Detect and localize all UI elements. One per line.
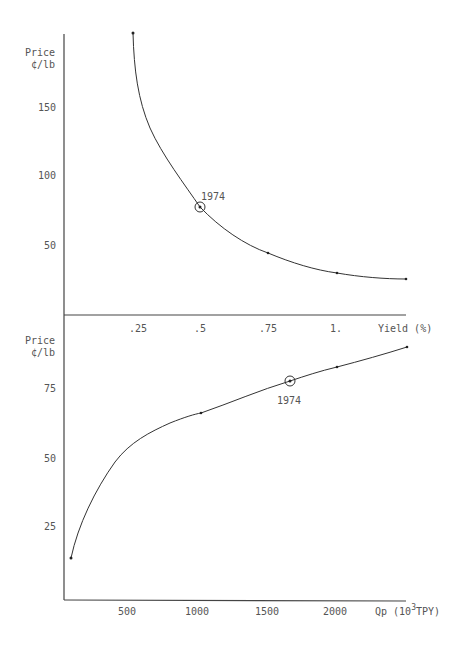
bottom-point <box>336 366 339 369</box>
bottom-x-axis <box>64 600 406 601</box>
bottom-xtick-1500: 1500 <box>255 606 279 617</box>
bottom-ylabel-line1: Price <box>25 335 55 346</box>
top-xtick-1: 1. <box>330 323 342 334</box>
bottom-curve <box>71 347 407 558</box>
bottom-point <box>200 412 203 415</box>
top-ylabel-line1: Price <box>25 47 55 58</box>
top-xtick-025: .25 <box>129 323 147 334</box>
bottom-xtick-1000: 1000 <box>185 606 209 617</box>
top-point-1974 <box>199 206 202 209</box>
top-xtick-075: .75 <box>259 323 277 334</box>
top-point <box>267 252 270 255</box>
top-curve <box>133 33 406 279</box>
bottom-xlabel: Qp (103TPY) <box>375 603 440 617</box>
top-point <box>132 32 135 35</box>
bottom-ytick-75: 75 <box>44 383 56 394</box>
top-point <box>336 272 339 275</box>
top-ytick-150: 150 <box>38 102 56 113</box>
bottom-point <box>406 346 409 349</box>
top-chart: Price ¢/lb 150 100 50 .25 .5 .75 1. Yiel… <box>25 32 432 335</box>
top-ylabel-line2: ¢/lb <box>31 59 55 70</box>
bottom-ytick-25: 25 <box>44 521 56 532</box>
bottom-point-1974 <box>289 380 292 383</box>
bottom-annotation-1974: 1974 <box>277 395 301 406</box>
top-ytick-100: 100 <box>38 170 56 181</box>
figure: Price ¢/lb 150 100 50 .25 .5 .75 1. Yiel… <box>0 0 468 652</box>
bottom-xtick-2000: 2000 <box>323 606 347 617</box>
top-xlabel: Yield (%) <box>378 323 432 334</box>
top-xtick-05: .5 <box>194 323 206 334</box>
bottom-xtick-500: 500 <box>118 606 136 617</box>
bottom-point <box>70 557 73 560</box>
bottom-ylabel-line2: ¢/lb <box>31 347 55 358</box>
bottom-ytick-50: 50 <box>44 453 56 464</box>
top-annotation-1974: 1974 <box>201 191 225 202</box>
top-point <box>405 278 408 281</box>
top-ytick-50: 50 <box>44 240 56 251</box>
bottom-chart: Price ¢/lb 75 50 25 500 1000 1500 2000 Q… <box>25 315 440 617</box>
